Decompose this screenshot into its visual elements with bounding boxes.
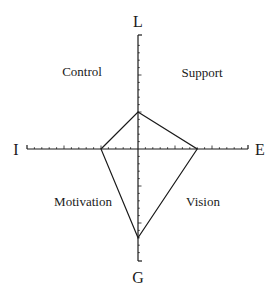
quadrant-label-control: Control xyxy=(62,64,102,79)
quadrant-label-vision: Vision xyxy=(186,194,220,209)
axis-label-bottom: G xyxy=(132,269,144,286)
quadrant-label-support: Support xyxy=(181,65,223,80)
axis-label-left: I xyxy=(13,141,18,158)
profile-polygon xyxy=(101,112,197,238)
axis-label-top: L xyxy=(133,13,143,30)
leadership-diagram: L G I E Control Support Motivation Visio… xyxy=(0,0,276,301)
quadrant-label-motivation: Motivation xyxy=(54,194,112,209)
axis-label-right: E xyxy=(255,141,265,158)
